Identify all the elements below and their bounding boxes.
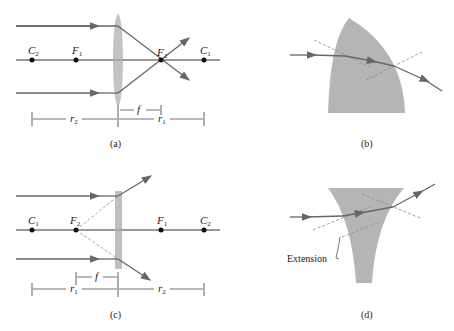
svg-text:C1: C1: [200, 44, 211, 58]
svg-text:C2: C2: [28, 44, 39, 58]
caption-d: (d): [361, 309, 373, 321]
svg-text:C2: C2: [200, 214, 211, 228]
caption-b: (b): [361, 138, 373, 150]
caption-a: (a): [110, 138, 121, 150]
svg-text:F2: F2: [69, 214, 81, 228]
svg-text:f: f: [137, 103, 142, 115]
caption-c: (c): [110, 309, 121, 321]
svg-text:r1: r1: [158, 112, 166, 126]
svg-text:F1: F1: [156, 214, 168, 228]
svg-text:r1: r1: [70, 282, 78, 296]
panel-b-convex-surface: (b): [290, 18, 442, 150]
lens-diagram-figure: C2 F1 F2 C1 f r2 r1 (a) (b) C1 F2 F1 C2 …: [0, 0, 454, 331]
svg-text:C1: C1: [28, 214, 39, 228]
extension-label: Extension: [287, 253, 327, 264]
svg-text:f: f: [95, 270, 100, 282]
svg-text:F1: F1: [71, 44, 83, 58]
panel-c-diverging-lens: C1 F2 F1 C2 f r1 r2 (c): [16, 176, 220, 321]
svg-text:F2: F2: [156, 46, 168, 60]
svg-text:r2: r2: [70, 112, 78, 126]
diverging-lens: [115, 191, 122, 269]
panel-a-converging-lens: C2 F1 F2 C1 f r2 r1 (a): [16, 14, 220, 150]
diagram-canvas: C2 F1 F2 C1 f r2 r1 (a) (b) C1 F2 F1 C2 …: [0, 0, 454, 331]
panel-d-concave-surface: Extension (d): [287, 184, 435, 321]
svg-text:r2: r2: [158, 282, 166, 296]
